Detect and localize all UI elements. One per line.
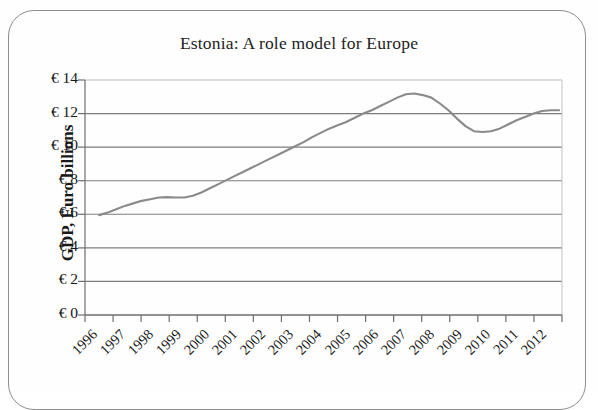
chart-figure: Estonia: A role model for Europe GDP, Eu… (0, 0, 598, 391)
x-tick-labels: 1996199719981999200020012002200320042005… (0, 0, 598, 391)
